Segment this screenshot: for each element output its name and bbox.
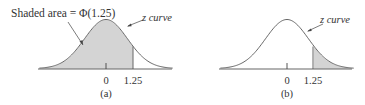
z-curve-b [220, 20, 353, 69]
tick-label-125-a: 1.25 [124, 75, 142, 86]
z-curve-figure: Shaded area = Φ(1.25) z curve 0 1.25 (a)… [0, 0, 365, 105]
z-curve-label-b: z curve [319, 14, 350, 25]
tick-label-0-a: 0 [103, 75, 108, 86]
caption-a: (a) [100, 88, 112, 100]
tick-label-125-b: 1.25 [304, 75, 322, 86]
arrowhead-icon [127, 24, 132, 27]
panel-b: z curve 0 1.25 (b) [219, 14, 354, 100]
panel-a: Shaded area = Φ(1.25) z curve 0 1.25 (a) [11, 7, 173, 100]
shaded-area-label: Shaded area = Φ(1.25) [11, 7, 115, 20]
z-curve-label-a: z curve [141, 12, 172, 23]
arrowhead-icon [307, 29, 312, 32]
shaded-area-right [314, 47, 354, 69]
tick-label-0-b: 0 [284, 75, 289, 86]
caption-b: (b) [281, 88, 294, 100]
